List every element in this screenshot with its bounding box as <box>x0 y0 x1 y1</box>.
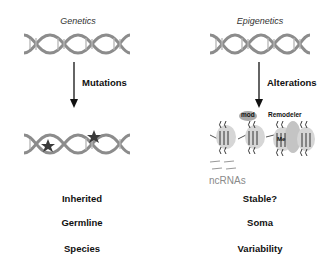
mutation-arrow-icon <box>70 62 78 108</box>
left-row-inherited: Inherited <box>22 193 142 204</box>
right-row-stable: Stable? <box>200 193 320 204</box>
ncrna-icon <box>208 160 242 172</box>
right-row-soma: Soma <box>200 217 320 228</box>
left-row-germline: Germline <box>22 217 142 228</box>
mutations-label: Mutations <box>82 77 127 88</box>
dna-helix-icon <box>22 33 132 55</box>
remodeler-label: Remodeler <box>268 111 302 118</box>
right-row-variability: Variability <box>200 243 320 254</box>
alterations-label: Alterations <box>267 77 317 88</box>
mutated-dna-icon <box>22 133 132 155</box>
dna-helix-icon <box>208 33 312 55</box>
left-row-species: Species <box>22 243 142 254</box>
me-label: Me <box>277 136 285 142</box>
nucleosome-chromatin-icon <box>210 113 320 158</box>
mod-label: mod <box>241 111 255 118</box>
ncrnas-label: ncRNAs <box>209 175 246 186</box>
alteration-arrow-icon <box>255 62 263 108</box>
epigenetics-title: Epigenetics <box>200 16 320 26</box>
genetics-title: Genetics <box>18 16 138 26</box>
